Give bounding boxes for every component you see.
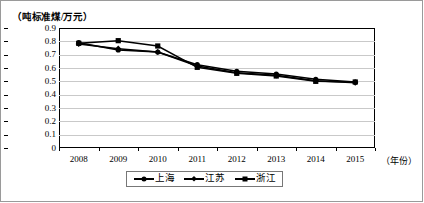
y-axis-tick-label: 0.3 [10, 104, 56, 113]
y-axis-tick-label: 0.8 [10, 37, 56, 46]
y-axis-tick-mark [4, 28, 8, 29]
x-axis-ticks: 20082009201020112012201320142015 [59, 150, 375, 166]
square-marker [76, 41, 81, 46]
legend-item[interactable]: 上海 [134, 173, 174, 184]
x-axis-tick-mark [99, 148, 100, 151]
y-axis-unit-label: （吨标准煤/万元） [12, 9, 93, 23]
y-axis-tick-label: 0.9 [10, 24, 56, 33]
square-marker-glyph [242, 176, 247, 181]
y-axis-tick-mark [4, 148, 8, 149]
y-axis-tick-label: 0.6 [10, 64, 56, 73]
y-axis-tick-label: 0.4 [10, 90, 56, 99]
diamond-marker-glyph [191, 175, 197, 181]
x-axis-tick-label: 2014 [307, 154, 325, 164]
diamond-marker [184, 174, 204, 183]
x-axis-tick-label: 2008 [70, 154, 88, 164]
y-axis-tick-mark [4, 135, 8, 136]
y-axis-tick-mark [4, 121, 8, 122]
x-axis-tick-mark [138, 148, 139, 151]
square-marker [116, 38, 121, 43]
plot-area [59, 28, 375, 148]
x-axis-unit-label: （年份） [381, 154, 417, 167]
x-axis-tick-mark [59, 148, 60, 151]
x-axis-tick-label: 2015 [346, 154, 364, 164]
y-axis-tick-mark [4, 41, 8, 42]
y-axis-tick-mark [4, 95, 8, 96]
x-axis-tick-mark [296, 148, 297, 151]
x-axis-tick-label: 2009 [109, 154, 127, 164]
y-axis-tick-mark [4, 108, 8, 109]
y-axis-tick-label: 0.5 [10, 77, 56, 86]
x-axis-tick-label: 2013 [267, 154, 285, 164]
circle-marker [134, 174, 154, 183]
chart-legend: 上海江苏浙江 [126, 171, 283, 187]
square-marker [155, 43, 160, 48]
square-marker [234, 71, 239, 76]
y-axis-tick-label: 0.7 [10, 50, 56, 59]
series-lines-layer [59, 28, 375, 148]
x-axis-tick-label: 2012 [228, 154, 246, 164]
chart-figure: （吨标准煤/万元） 00.10.20.30.40.50.60.70.80.9 2… [0, 0, 424, 203]
square-marker [195, 65, 200, 70]
y-axis-tick-label: 0.1 [10, 130, 56, 139]
square-marker [313, 79, 318, 84]
square-marker [353, 79, 358, 84]
legend-label: 江苏 [205, 173, 224, 184]
x-axis-tick-mark [375, 148, 376, 151]
x-axis-tick-mark [217, 148, 218, 151]
square-marker [274, 73, 279, 78]
square-marker [235, 174, 255, 183]
x-axis-tick-mark [336, 148, 337, 151]
legend-label: 浙江 [256, 173, 275, 184]
circle-marker-glyph [142, 176, 147, 181]
y-axis-ticks: 00.10.20.30.40.50.60.70.80.9 [8, 28, 56, 148]
y-axis-tick-mark [4, 81, 8, 82]
y-axis-tick-label: 0 [10, 144, 56, 153]
series-line [79, 41, 356, 82]
legend-item[interactable]: 江苏 [184, 173, 224, 184]
x-axis-tick-label: 2010 [149, 154, 167, 164]
y-axis-tick-mark [4, 68, 8, 69]
legend-item[interactable]: 浙江 [235, 173, 275, 184]
x-axis-tick-mark [178, 148, 179, 151]
y-axis-tick-mark [4, 55, 8, 56]
x-axis-tick-label: 2011 [188, 154, 206, 164]
y-axis-tick-label: 0.2 [10, 117, 56, 126]
diamond-marker [155, 49, 161, 55]
x-axis-tick-mark [257, 148, 258, 151]
legend-label: 上海 [155, 173, 174, 184]
